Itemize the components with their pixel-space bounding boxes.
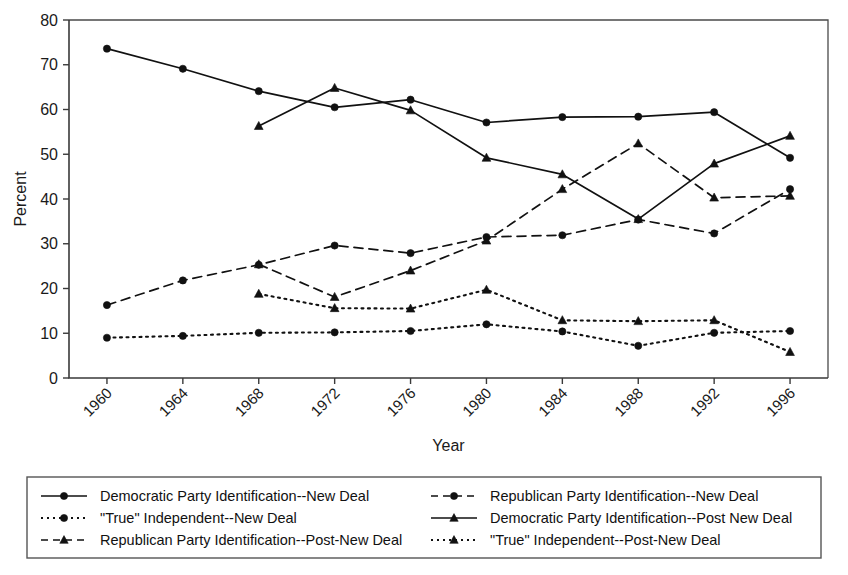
data-point-circle (786, 327, 793, 334)
y-tick-label-10: 10 (40, 325, 58, 342)
data-point-circle (103, 334, 110, 341)
data-point-circle (407, 327, 414, 334)
legend-label-4: Democratic Party Identification--Post Ne… (490, 510, 792, 526)
data-point-circle (559, 232, 566, 239)
x-axis-title: Year (432, 437, 465, 454)
x-tick-label-1968: 1968 (231, 384, 267, 420)
data-point-circle (711, 329, 718, 336)
series-0 (103, 45, 793, 161)
data-point-circle (255, 88, 262, 95)
y-axis-title: Percent (12, 171, 29, 227)
data-point-circle (786, 154, 793, 161)
data-point-circle (711, 230, 718, 237)
legend-group: Democratic Party Identification--New Dea… (27, 477, 821, 558)
y-tick-label-40: 40 (40, 191, 58, 208)
x-tick-label-1988: 1988 (611, 384, 647, 420)
series-2 (103, 321, 793, 350)
y-tick-label-20: 20 (40, 280, 58, 297)
data-point-circle (103, 45, 110, 52)
x-tick-label-1992: 1992 (687, 384, 723, 420)
chart-figure: 01020304050607080 1960196419681972197619… (0, 0, 848, 575)
legend-label-1: "True" Independent--New Deal (100, 510, 297, 526)
x-tick-label-1984: 1984 (535, 384, 571, 420)
data-point-circle (407, 250, 414, 257)
series-path-2 (107, 324, 790, 346)
x-tick-label-1976: 1976 (383, 384, 419, 420)
data-point-circle (711, 109, 718, 116)
data-point-circle (179, 332, 186, 339)
legend-label-3: Republican Party Identification--New Dea… (490, 488, 758, 504)
data-point-circle (559, 114, 566, 121)
data-point-circle (331, 242, 338, 249)
data-point-triangle (634, 139, 643, 147)
x-tick-label-1972: 1972 (307, 384, 343, 420)
data-point-circle (635, 113, 642, 120)
series-path-1 (107, 189, 790, 305)
x-tick-label-1964: 1964 (155, 384, 191, 420)
x-tick-label-1980: 1980 (459, 384, 495, 420)
y-axis-group: 01020304050607080 (40, 12, 69, 387)
x-tick-label-1996: 1996 (763, 384, 799, 420)
data-point-circle (483, 119, 490, 126)
data-point-circle (331, 104, 338, 111)
data-point-circle (103, 301, 110, 308)
party-identification-line-chart: 01020304050607080 1960196419681972197619… (0, 0, 848, 575)
data-point-triangle (558, 316, 567, 324)
y-tick-label-50: 50 (40, 146, 58, 163)
data-point-circle (559, 328, 566, 335)
y-tick-label-60: 60 (40, 101, 58, 118)
data-point-triangle (558, 185, 567, 193)
x-tick-label-1960: 1960 (79, 384, 115, 420)
data-point-triangle (786, 131, 795, 139)
data-point-circle (60, 492, 67, 499)
y-tick-label-30: 30 (40, 235, 58, 252)
data-point-triangle (786, 347, 795, 355)
data-point-circle (60, 514, 67, 521)
data-point-circle (179, 277, 186, 284)
data-point-triangle (254, 289, 263, 297)
y-tick-label-80: 80 (40, 12, 58, 29)
data-point-circle (483, 321, 490, 328)
x-axis-group: 1960196419681972197619801984198819921996 (79, 378, 798, 420)
data-point-circle (450, 492, 457, 499)
y-tick-label-70: 70 (40, 56, 58, 73)
data-point-triangle (482, 285, 491, 293)
data-point-triangle (482, 153, 491, 161)
data-point-circle (255, 329, 262, 336)
y-tick-label-0: 0 (49, 370, 58, 387)
legend-label-2: Republican Party Identification--Post-Ne… (100, 532, 402, 548)
series-group (103, 45, 794, 355)
legend-label-5: "True" Independent--Post-New Deal (490, 532, 721, 548)
data-point-triangle (330, 83, 339, 91)
legend-label-0: Democratic Party Identification--New Dea… (100, 488, 369, 504)
data-point-triangle (710, 193, 719, 201)
data-point-circle (179, 65, 186, 72)
data-point-circle (407, 96, 414, 103)
series-1 (103, 186, 793, 309)
data-point-circle (331, 329, 338, 336)
series-path-0 (107, 49, 790, 158)
data-point-circle (635, 342, 642, 349)
